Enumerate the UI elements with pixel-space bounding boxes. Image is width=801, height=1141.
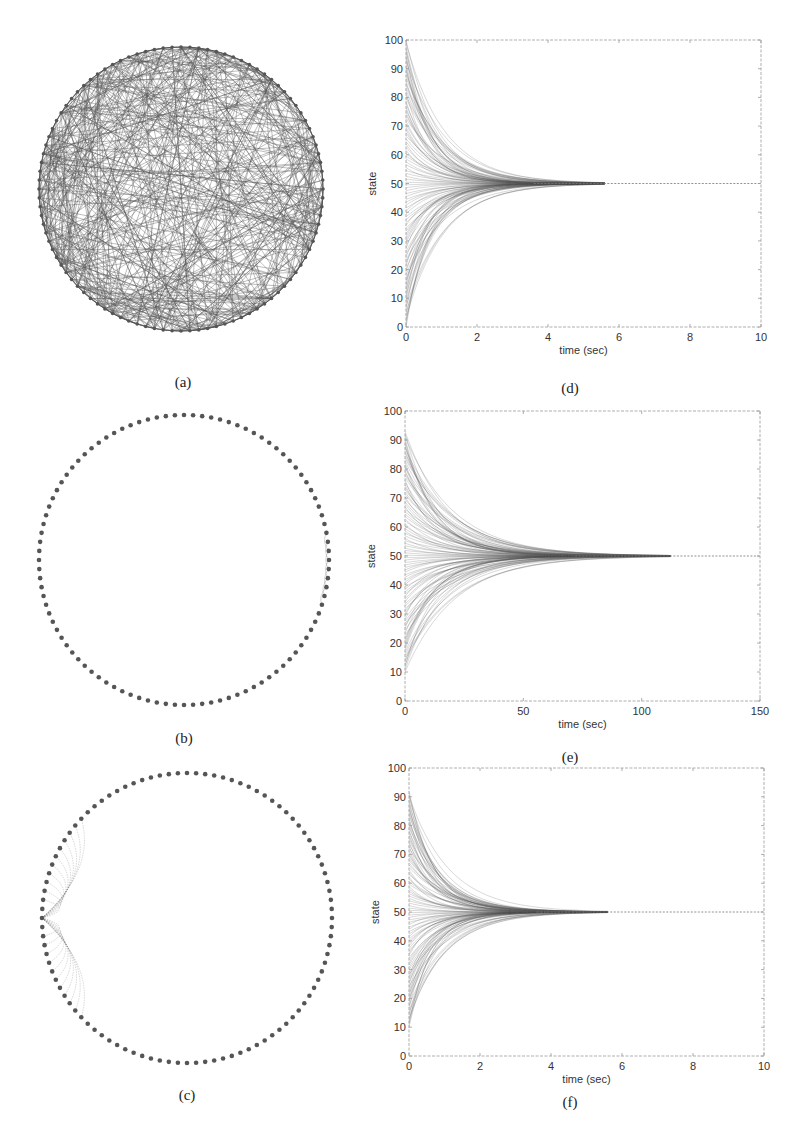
panel-label-a: (a) — [175, 374, 192, 391]
y-axis-label: state — [365, 544, 377, 568]
panel-label-e: (e) — [562, 749, 579, 766]
state-plot-d: 01020304050607080901000246810time (sec)s… — [366, 34, 767, 356]
x-tick-label: 6 — [616, 331, 622, 343]
x-axis-label: time (sec) — [558, 718, 606, 730]
y-tick-label: 70 — [391, 120, 403, 132]
network-graph-a — [37, 45, 325, 333]
x-tick-label: 0 — [406, 1060, 412, 1072]
x-axis-label: time (sec) — [559, 344, 607, 356]
y-tick-label: 20 — [391, 264, 403, 276]
x-axis-label: time (sec) — [562, 1073, 610, 1085]
y-tick-label: 50 — [391, 178, 403, 190]
y-tick-label: 90 — [390, 434, 402, 446]
y-tick-label: 90 — [391, 63, 403, 75]
x-tick-label: 2 — [477, 1060, 483, 1072]
network-graph-b — [37, 413, 332, 708]
y-tick-label: 30 — [391, 235, 403, 247]
y-tick-label: 50 — [390, 550, 402, 562]
x-tick-label: 10 — [755, 331, 767, 343]
x-tick-label: 8 — [687, 331, 693, 343]
y-tick-label: 20 — [394, 992, 406, 1004]
panel-label-f: (f) — [563, 1094, 578, 1111]
y-tick-label: 100 — [385, 34, 403, 46]
y-axis-label: state — [369, 900, 381, 924]
y-tick-label: 50 — [394, 906, 406, 918]
y-tick-label: 40 — [390, 579, 402, 591]
trajectories — [406, 40, 605, 327]
trajectories — [409, 791, 608, 1027]
nodes — [40, 771, 335, 1066]
ticks: 01020304050607080901000246810 — [385, 34, 767, 343]
figure-canvas: 01020304050607080901000246810time (sec)s… — [0, 0, 801, 1141]
y-tick-label: 20 — [390, 637, 402, 649]
y-tick-label: 90 — [394, 791, 406, 803]
panel-label-b: (b) — [175, 730, 193, 747]
y-tick-label: 10 — [390, 666, 402, 678]
x-tick-label: 10 — [758, 1060, 770, 1072]
y-tick-label: 60 — [391, 149, 403, 161]
y-tick-label: 100 — [384, 405, 402, 417]
y-tick-label: 60 — [390, 521, 402, 533]
y-tick-label: 70 — [390, 492, 402, 504]
y-tick-label: 80 — [390, 463, 402, 475]
y-axis-label: state — [366, 172, 378, 196]
x-tick-label: 4 — [545, 331, 551, 343]
x-tick-label: 0 — [403, 331, 409, 343]
x-tick-label: 150 — [751, 705, 769, 717]
y-tick-label: 30 — [394, 964, 406, 976]
trajectories — [405, 431, 670, 672]
edges — [42, 819, 84, 1018]
panel-label-c: (c) — [179, 1087, 196, 1104]
ticks: 01020304050607080901000246810 — [388, 762, 770, 1072]
y-tick-label: 80 — [394, 820, 406, 832]
y-tick-label: 10 — [391, 292, 403, 304]
x-tick-label: 2 — [474, 331, 480, 343]
y-tick-label: 10 — [394, 1021, 406, 1033]
y-tick-label: 60 — [394, 877, 406, 889]
state-plot-f: 01020304050607080901000246810time (sec)s… — [369, 762, 770, 1085]
y-tick-label: 100 — [388, 762, 406, 774]
x-tick-label: 4 — [548, 1060, 554, 1072]
x-tick-label: 100 — [632, 705, 650, 717]
nodes — [37, 413, 332, 708]
x-tick-label: 6 — [619, 1060, 625, 1072]
y-tick-label: 30 — [390, 608, 402, 620]
panel-label-d: (d) — [561, 380, 579, 397]
edges — [39, 47, 323, 331]
y-tick-label: 40 — [394, 935, 406, 947]
x-tick-label: 50 — [517, 705, 529, 717]
x-tick-label: 8 — [690, 1060, 696, 1072]
y-tick-label: 70 — [394, 848, 406, 860]
state-plot-e: 0102030405060708090100050100150time (sec… — [365, 405, 769, 730]
x-tick-label: 0 — [402, 705, 408, 717]
y-tick-label: 80 — [391, 91, 403, 103]
network-graph-c — [40, 771, 335, 1066]
y-tick-label: 40 — [391, 206, 403, 218]
